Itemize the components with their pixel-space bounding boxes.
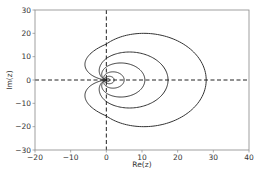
y-tick-label: 0 — [26, 76, 31, 85]
x-tick-label: 30 — [209, 153, 219, 162]
x-axis-label: Re(z) — [132, 160, 151, 169]
x-tick-label: 40 — [244, 153, 254, 162]
y-tick-label: −20 — [15, 122, 31, 131]
x-tick-label: 0 — [104, 153, 109, 162]
x-tick-label: 20 — [173, 153, 183, 162]
y-tick-label: 20 — [21, 29, 31, 38]
y-axis-ticks: −30−20−100102030 — [15, 6, 35, 155]
chart: −20−10010203040 −30−20−100102030 Re(z) I… — [0, 0, 259, 179]
y-tick-label: 30 — [21, 6, 31, 15]
y-tick-label: −30 — [15, 146, 31, 155]
y-axis-label: Im(z) — [5, 70, 14, 89]
y-tick-label: 10 — [21, 52, 31, 61]
y-tick-label: −10 — [15, 99, 31, 108]
x-tick-label: −10 — [63, 153, 79, 162]
